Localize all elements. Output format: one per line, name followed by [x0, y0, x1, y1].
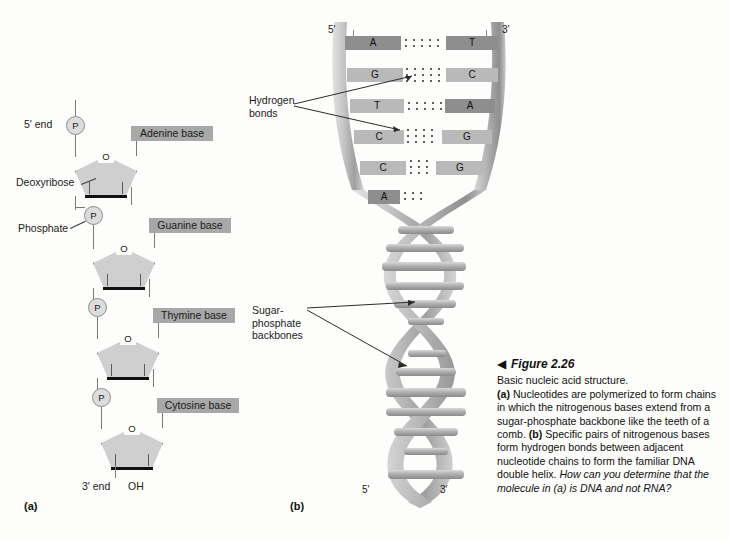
label-bottom-3prime: 3′	[440, 484, 447, 495]
caption-left-arrow-icon: ◀	[497, 358, 506, 370]
base-label-cytosine: Cytosine base	[157, 398, 239, 413]
leader-phosphate	[70, 221, 86, 229]
base-label-guanine: Guanine base	[149, 218, 231, 233]
sugar-bottom-bond-2	[103, 287, 145, 290]
base-connector-4	[162, 412, 163, 428]
sugar-tick-1b	[122, 182, 123, 194]
hydrogen-bond-dots-6	[404, 190, 426, 202]
base-pair-1-right: T	[446, 36, 498, 50]
sugar-tick-2b	[140, 274, 141, 286]
label-hydroxyl: OH	[128, 480, 144, 493]
base-connector-2	[154, 232, 155, 248]
sugar-ring-1: O	[75, 150, 137, 198]
sugar-tick-3b	[144, 364, 145, 376]
callout-hydrogen-bonds: Hydrogen bonds	[249, 94, 295, 119]
sugar-tick-1a	[89, 182, 90, 194]
caption-b-tag: (b)	[529, 428, 543, 440]
base-pair-1-left: A	[345, 36, 401, 50]
panel-a-tag: (a)	[24, 500, 37, 512]
figure-title-row: ◀Figure 2.26	[497, 358, 719, 371]
phosphate-circle-1: P	[66, 116, 85, 135]
sugar-oxygen-label-2: O	[116, 242, 132, 255]
base-pair-5-left: C	[360, 161, 406, 175]
sugar-tick-4a	[115, 454, 116, 466]
sugar-ring-2: O	[93, 242, 155, 290]
hydrogen-bond-dots-5	[410, 159, 432, 175]
sugar-tick-4b	[148, 454, 149, 466]
hydrogen-bond-dots-1	[405, 37, 443, 49]
base-label-adenine: Adenine base	[131, 126, 213, 141]
callout-deoxyribose: Deoxyribose	[16, 176, 74, 189]
sugar-stub-2	[149, 279, 150, 297]
base-pair-6-left: A	[368, 190, 400, 204]
sugar-bottom-bond-4	[111, 467, 153, 470]
figure-caption: ◀Figure 2.26 Basic nucleic acid structur…	[497, 358, 719, 495]
base-connector-3	[158, 322, 159, 338]
sugar-ring-3: O	[97, 332, 159, 380]
label-3prime-end: 3′ end	[82, 480, 110, 493]
sugar-stub-3	[153, 369, 154, 387]
phosphate-circle-4: P	[92, 388, 111, 407]
base-label-thymine: Thymine base	[153, 308, 235, 323]
phosphate-circle-3: P	[88, 298, 107, 317]
sugar-tick-2a	[107, 274, 108, 286]
base-pair-5-right: G	[436, 161, 484, 175]
sugar-tick-3a	[111, 364, 112, 376]
caption-body: (a) Nucleotides are polymerized to form …	[497, 388, 716, 494]
caption-a-tag: (a)	[497, 388, 510, 400]
backbone-line-top	[75, 100, 76, 116]
sugar-bottom-bond-1	[85, 195, 127, 198]
leader-lines-hydrogen-bonds	[294, 72, 424, 132]
sugar-bottom-bond-3	[107, 377, 149, 380]
callout-phosphate: Phosphate	[18, 222, 68, 235]
panel-b-tag: (b)	[290, 500, 304, 512]
figure-container: 5′ end P O Adenine base Deoxyribose P Ph…	[0, 0, 729, 540]
backbone-join-2	[75, 207, 85, 208]
base-pair-4-left: C	[354, 130, 404, 144]
base-pair-4-right: G	[442, 130, 492, 144]
sugar-oxygen-label-3: O	[120, 332, 136, 345]
panel-a-nucleotide-chain: 5′ end P O Adenine base Deoxyribose P Ph…	[0, 0, 290, 540]
sugar-ring-4: O	[101, 422, 163, 470]
backbone-line-end	[115, 466, 116, 478]
callout-sugar-phosphate-backbones: Sugar- phosphate backbones	[252, 304, 303, 342]
caption-subtitle: Basic nucleic acid structure.	[497, 374, 719, 387]
label-5prime-end: 5′ end	[24, 118, 52, 131]
base-connector-1	[136, 140, 137, 156]
sugar-oxygen-label-1: O	[98, 150, 114, 163]
base-pair-3-right: A	[445, 99, 495, 113]
sugar-oxygen-label-4: O	[124, 422, 140, 435]
label-top-5prime: 5′	[328, 24, 335, 35]
phosphate-circle-2: P	[84, 206, 103, 225]
sugar-stub-1	[131, 187, 132, 205]
label-bottom-5prime: 5′	[362, 484, 369, 495]
figure-number: Figure 2.26	[511, 358, 574, 371]
label-top-3prime: 3′	[502, 24, 509, 35]
leader-lines-sugar-phosphate	[307, 300, 427, 370]
base-pair-2-right: C	[446, 68, 498, 82]
